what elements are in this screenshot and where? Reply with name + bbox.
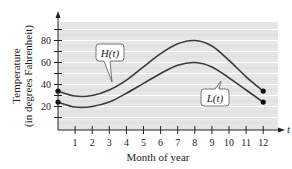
x-tick-label: 5 [141, 137, 146, 148]
svg-text:H(t): H(t) [100, 47, 120, 60]
y-tick-label: 60 [41, 57, 51, 68]
x-tick-label: 2 [90, 137, 95, 148]
x-tick-label: 9 [209, 137, 214, 148]
x-axis-arrow-icon [278, 128, 285, 133]
y-tick-label: 20 [41, 101, 51, 112]
temperature-chart: t12345678910111220406080 Month of yearTe… [0, 0, 292, 169]
y-tick-label: 80 [41, 35, 51, 46]
x-tick-label: 3 [107, 137, 112, 148]
y-axis-title: Temperature(in degrees Fahrenheit) [10, 25, 35, 127]
x-tick-label: 6 [158, 137, 163, 148]
endpoint-dot [261, 89, 266, 94]
x-axis-title: Month of year [127, 151, 190, 163]
x-tick-label: 11 [241, 137, 251, 148]
y-tick-label: 40 [41, 79, 51, 90]
x-tick-label: 4 [124, 137, 129, 148]
svg-text:L(t): L(t) [206, 92, 224, 105]
x-tick-label: 8 [192, 137, 197, 148]
endpoint-dot [261, 100, 266, 105]
x-tick-label: 1 [73, 137, 78, 148]
x-axis-var-label: t [287, 123, 291, 135]
y-axis-arrow-icon [56, 11, 61, 18]
x-tick-label: 12 [258, 137, 268, 148]
x-tick-label: 10 [224, 137, 234, 148]
x-tick-label: 7 [175, 137, 180, 148]
